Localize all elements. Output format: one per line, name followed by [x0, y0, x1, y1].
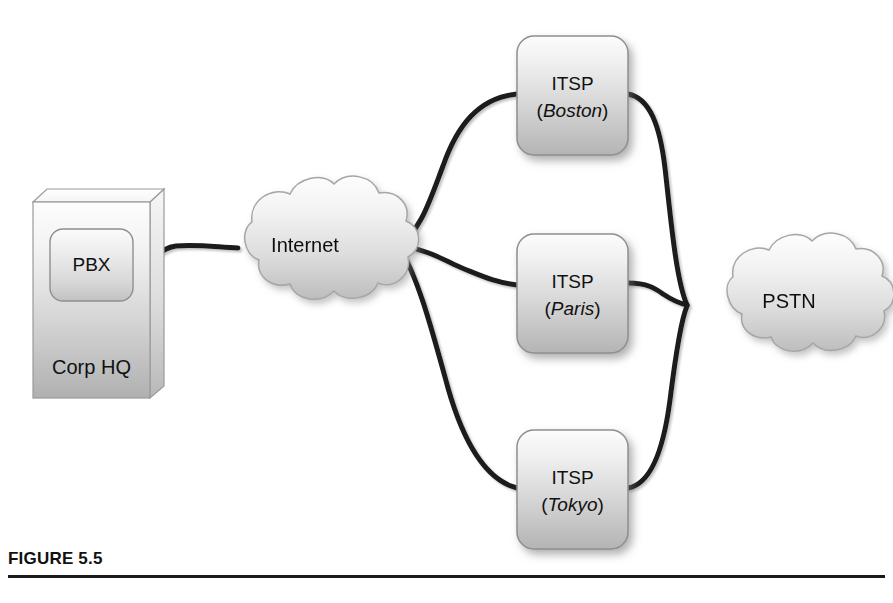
itsp-tokyo-box — [517, 430, 628, 549]
internet-label: Internet — [271, 234, 339, 256]
node-itsp-paris[interactable]: ITSP (Paris) — [517, 234, 628, 353]
corp-hq-side-face — [150, 189, 164, 398]
itsp-paris-label-line2: (Paris) — [545, 298, 601, 319]
link-tokyo-pstn — [628, 306, 687, 488]
link-internet-boston — [398, 94, 517, 245]
paren-close: ) — [602, 100, 608, 121]
link-paris-pstn — [628, 283, 687, 305]
node-itsp-tokyo[interactable]: ITSP (Tokyo) — [517, 430, 628, 549]
figure-caption: FIGURE 5.5 — [8, 549, 885, 569]
itsp-paris-label-line1: ITSP — [551, 271, 593, 292]
itsp-tokyo-city: Tokyo — [548, 494, 598, 515]
paren-close: ) — [594, 298, 600, 319]
itsp-boston-label-line1: ITSP — [551, 73, 593, 94]
figure-container: PBX Corp HQ Internet ITSP (Boston) ITSP … — [0, 0, 893, 603]
node-pstn[interactable]: PSTN — [727, 233, 893, 351]
node-pbx[interactable]: PBX — [50, 229, 133, 301]
pbx-label: PBX — [72, 254, 110, 275]
caption-rule — [8, 575, 885, 578]
pstn-label: PSTN — [762, 290, 815, 312]
network-diagram: PBX Corp HQ Internet ITSP (Boston) ITSP … — [0, 0, 893, 603]
itsp-paris-box — [517, 234, 628, 353]
corp-hq-label: Corp HQ — [52, 356, 131, 378]
itsp-tokyo-label-line1: ITSP — [551, 467, 593, 488]
figure-caption-block: FIGURE 5.5 — [8, 549, 885, 578]
paren-close: ) — [598, 494, 604, 515]
node-itsp-boston[interactable]: ITSP (Boston) — [517, 36, 628, 155]
itsp-tokyo-label-line2: (Tokyo) — [541, 494, 604, 515]
corp-hq-top-face — [33, 189, 164, 202]
itsp-boston-box — [517, 36, 628, 155]
node-internet[interactable]: Internet — [245, 176, 419, 299]
itsp-boston-city: Boston — [543, 100, 602, 121]
itsp-paris-city: Paris — [551, 298, 595, 319]
link-boston-pstn — [628, 94, 687, 305]
node-corp-hq[interactable]: PBX Corp HQ — [33, 189, 164, 398]
itsp-boston-label-line2: (Boston) — [537, 100, 609, 121]
